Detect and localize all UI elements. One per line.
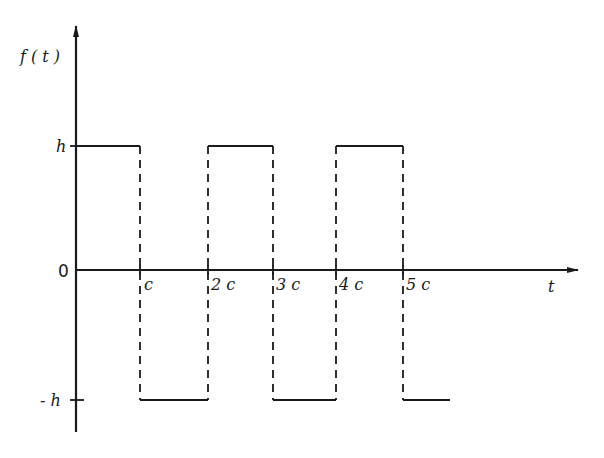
x-tick-label-3c: 3 c [276,275,300,294]
x-tick-label-4c: 4 c [338,275,363,294]
waveform-transitions [140,146,403,400]
square-wave-diagram: f ( t ) t h 0 - h c 2 c 3 c 4 c 5 c [0,0,604,458]
y-tick-label-neg-h: - h [40,391,61,410]
waveform-solid [76,146,450,400]
diagram-canvas: f ( t ) t h 0 - h c 2 c 3 c 4 c 5 c [0,0,604,458]
x-tick-label-5c: 5 c [406,275,430,294]
x-tick-label-2c: 2 c [210,275,235,294]
y-tick-label-h: h [56,137,66,156]
x-tick-label-c: c [144,275,153,294]
x-axis-label: t [548,277,555,296]
y-axis-label: f ( t ) [19,47,60,66]
y-tick-label-0: 0 [58,261,69,281]
